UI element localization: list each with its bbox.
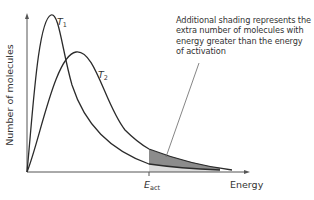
eact-label: Eact xyxy=(144,179,161,192)
x-axis-label: Energy xyxy=(230,179,264,190)
annotation-pointer xyxy=(166,63,199,157)
curve-t2 xyxy=(27,52,232,172)
y-axis-label: Number of molecules xyxy=(4,44,15,146)
x-axis-arrow-icon xyxy=(244,170,250,174)
annotation-text: Additional shading represents the extra … xyxy=(176,15,312,57)
y-axis-arrow-icon xyxy=(25,13,29,19)
